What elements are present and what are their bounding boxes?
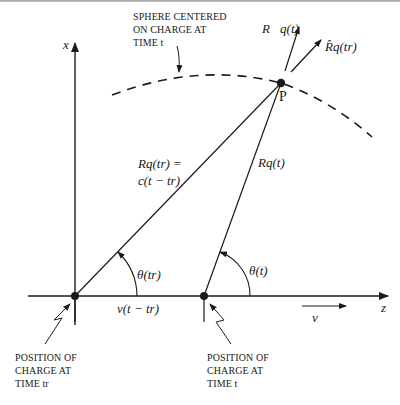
sphere-note-line3: TIME t — [133, 36, 226, 49]
sphere-arc — [112, 75, 372, 137]
position-tr-line3: TIME tr — [15, 377, 77, 390]
position-t-line2: CHARGE AT — [207, 364, 269, 377]
pointer-tr — [45, 304, 70, 344]
sphere-note-line1: SPHERE CENTERED — [133, 10, 226, 23]
charge-t-dot — [200, 292, 208, 300]
position-tr-line2: CHARGE AT — [15, 364, 77, 377]
diagram-graphics — [0, 0, 400, 405]
R-tr-line2: c(t − tr) — [138, 172, 182, 189]
pointer-t — [210, 304, 231, 344]
line-R-t — [204, 83, 281, 296]
R-tr-label: Rq(tr) = c(t − tr) — [138, 155, 182, 189]
position-t-line1: POSITION OF — [207, 351, 269, 364]
position-t-note: POSITION OF CHARGE AT TIME t — [207, 351, 269, 390]
position-t-line3: TIME t — [207, 377, 269, 390]
vector-R-t-label: R⃗q(t) — [262, 22, 299, 35]
vector-R-hat-tr-label: R̂q(tr) — [325, 40, 357, 53]
point-p-dot — [277, 79, 285, 87]
velocity-label: v⃗ — [312, 311, 328, 324]
v-distance-label: v(t − tr) — [117, 302, 159, 315]
position-tr-note: POSITION OF CHARGE AT TIME tr — [15, 351, 77, 390]
theta-t-label: θ(t) — [249, 264, 268, 277]
z-axis-label: z — [381, 301, 386, 314]
R-t-label: Rq(t) — [258, 156, 285, 169]
vector-R-hat-tr — [291, 40, 321, 72]
diagram-canvas: SPHERE CENTERED ON CHARGE AT TIME t x z … — [0, 0, 400, 405]
charge-tr-dot — [71, 292, 79, 300]
position-tr-line1: POSITION OF — [15, 351, 77, 364]
angle-arc-theta-tr — [118, 252, 137, 296]
sphere-note-line2: ON CHARGE AT — [133, 23, 226, 36]
sphere-note: SPHERE CENTERED ON CHARGE AT TIME t — [133, 10, 226, 49]
x-axis-label: x — [63, 38, 69, 51]
sphere-note-arrow — [177, 46, 179, 72]
theta-tr-label: θ(tr) — [137, 268, 161, 281]
angle-arc-theta-t — [220, 252, 250, 296]
point-p-label: P — [279, 90, 287, 104]
R-tr-line1: Rq(tr) = — [138, 155, 182, 172]
